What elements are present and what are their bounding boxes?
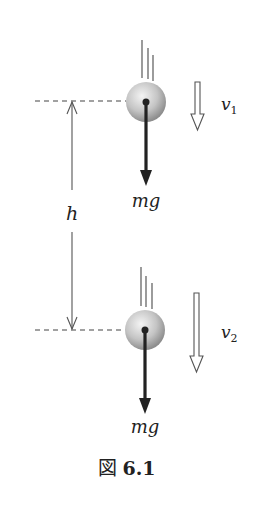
force-label-bottom: mg	[131, 416, 160, 437]
velocity-arrow-bottom	[190, 293, 203, 372]
falling-ball-diagram: h mg v1 mg v2 図6.1	[0, 0, 258, 509]
velocity-arrow-top	[191, 82, 204, 130]
force-label-top: mg	[132, 190, 161, 211]
motion-lines-bottom	[141, 267, 152, 309]
motion-lines-top	[142, 40, 153, 81]
velocity-label-top: v1	[221, 94, 238, 117]
velocity-label-bottom: v2	[221, 322, 238, 345]
height-label: h	[66, 202, 78, 224]
figure-caption: 図6.1	[98, 457, 155, 479]
